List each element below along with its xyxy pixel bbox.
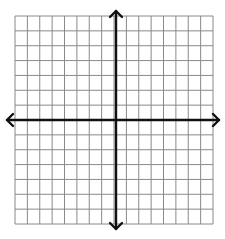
axes <box>7 11 219 229</box>
coordinate-plane <box>0 0 225 239</box>
